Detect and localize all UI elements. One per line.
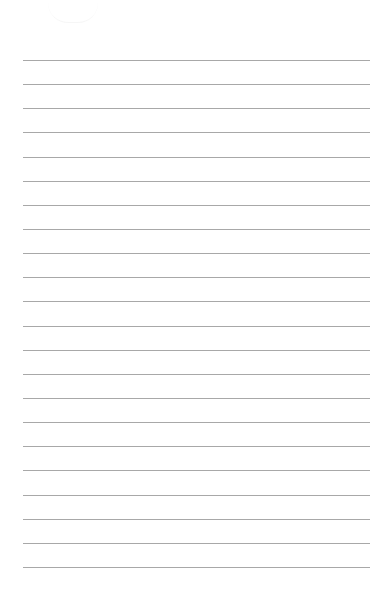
ruled-line [23,374,370,375]
ruled-line [23,181,370,182]
ruled-line [23,253,370,254]
lined-paper-page [0,0,387,598]
ruled-line [23,495,370,496]
ruled-line [23,519,370,520]
ruled-line [23,84,370,85]
ruled-line [23,567,370,568]
ruled-line [23,543,370,544]
ruled-line [23,108,370,109]
ruled-line [23,446,370,447]
ruled-line [23,301,370,302]
ruled-line [23,277,370,278]
ruled-line [23,60,370,61]
ruled-line [23,422,370,423]
ruled-line [23,350,370,351]
ruled-line [23,470,370,471]
ruled-line [23,398,370,399]
ruled-line [23,157,370,158]
ruled-line [23,326,370,327]
ruled-line [23,205,370,206]
ruled-line [23,132,370,133]
ink-bleed-through [48,0,98,23]
ruled-line [23,229,370,230]
